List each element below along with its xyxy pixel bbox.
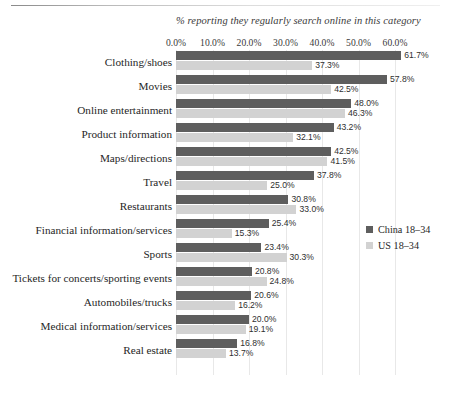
category-label: Financial information/services — [36, 218, 172, 242]
chart-row: Product information43.2%32.1% — [0, 122, 455, 146]
category-label: Movies — [138, 74, 172, 98]
bar-value-label: 30.3% — [287, 253, 314, 262]
bar-us — [176, 349, 226, 358]
chart-row: Real estate16.8%13.7% — [0, 338, 455, 362]
bar-us — [176, 133, 293, 142]
bar-value-label: 57.8% — [387, 75, 414, 84]
bar-china — [176, 339, 237, 348]
category-label: Travel — [143, 170, 172, 194]
bar-china — [176, 219, 269, 228]
bar-value-label: 25.0% — [267, 181, 294, 190]
chart-row: Automobiles/trucks20.6%16.2% — [0, 290, 455, 314]
chart-row: Restaurants30.8%33.0% — [0, 194, 455, 218]
bar-value-label: 15.3% — [232, 229, 259, 238]
chart-row: Travel37.8%25.0% — [0, 170, 455, 194]
legend-swatch-icon — [366, 226, 373, 233]
category-label: Automobiles/trucks — [84, 290, 172, 314]
bar-us — [176, 109, 345, 118]
bar-value-label: 20.6% — [251, 291, 278, 300]
bar-us — [176, 229, 232, 238]
x-axis-tick-labels: 0.0%10.0%20.0%30.0%40.0%50.0%60.0% — [0, 36, 455, 49]
legend-swatch-icon — [366, 242, 373, 249]
chart-row: Medical information/services20.0%19.1% — [0, 314, 455, 338]
bar-value-label: 16.8% — [237, 339, 264, 348]
bar-us — [176, 157, 327, 166]
bar-china — [176, 123, 334, 132]
bar-value-label: 19.1% — [246, 325, 273, 334]
bar-value-label: 61.7% — [401, 51, 428, 60]
chart-row: Maps/directions42.5%41.5% — [0, 146, 455, 170]
legend-item[interactable]: China 18–34 — [366, 222, 455, 238]
bar-value-label: 23.4% — [261, 243, 288, 252]
bar-value-label: 42.5% — [331, 85, 358, 94]
bar-value-label: 33.0% — [296, 205, 323, 214]
bar-value-label: 20.8% — [252, 267, 279, 276]
bar-china — [176, 171, 314, 180]
bar-china — [176, 99, 351, 108]
bar-us — [176, 301, 235, 310]
bar-china — [176, 315, 249, 324]
bar-china — [176, 75, 387, 84]
category-label: Online entertainment — [77, 98, 172, 122]
bar-value-label: 20.0% — [249, 315, 276, 324]
chart-row: Movies57.8%42.5% — [0, 74, 455, 98]
bar-chart: % reporting they regularly search online… — [0, 0, 455, 397]
legend-item[interactable]: US 18–34 — [366, 238, 455, 254]
bar-us — [176, 85, 331, 94]
bar-value-label: 46.3% — [345, 109, 372, 118]
chart-row: Tickets for concerts/sporting events20.8… — [0, 266, 455, 290]
category-label: Product information — [82, 122, 172, 146]
bar-value-label: 37.3% — [312, 61, 339, 70]
bar-value-label: 42.5% — [331, 147, 358, 156]
bar-us — [176, 253, 287, 262]
bar-china — [176, 51, 401, 60]
bar-us — [176, 181, 267, 190]
chart-row: Clothing/shoes61.7%37.3% — [0, 50, 455, 74]
bar-china — [176, 147, 331, 156]
bar-value-label: 41.5% — [327, 157, 354, 166]
bar-value-label: 32.1% — [293, 133, 320, 142]
chart-title: % reporting they regularly search online… — [176, 14, 446, 27]
top-divider — [11, 5, 440, 6]
category-label: Medical information/services — [41, 314, 172, 338]
bar-value-label: 43.2% — [334, 123, 361, 132]
category-label: Maps/directions — [100, 146, 172, 170]
bar-us — [176, 277, 267, 286]
category-label: Real estate — [123, 338, 172, 362]
bar-china — [176, 267, 252, 276]
category-label: Clothing/shoes — [105, 50, 172, 74]
bar-value-label: 13.7% — [226, 349, 253, 358]
bar-china — [176, 243, 261, 252]
category-label: Sports — [143, 242, 172, 266]
bar-us — [176, 325, 246, 334]
bar-value-label: 37.8% — [314, 171, 341, 180]
bar-rows: Clothing/shoes61.7%37.3%Movies57.8%42.5%… — [0, 50, 455, 362]
bar-value-label: 24.8% — [267, 277, 294, 286]
x-axis-tick: 60.0% — [365, 36, 425, 49]
legend-label: US 18–34 — [378, 238, 419, 254]
bar-us — [176, 61, 312, 70]
bar-value-label: 16.2% — [235, 301, 262, 310]
legend: China 18–34US 18–34 — [366, 222, 455, 254]
bar-value-label: 30.8% — [288, 195, 315, 204]
bar-china — [176, 195, 288, 204]
bar-china — [176, 291, 251, 300]
category-label: Tickets for concerts/sporting events — [12, 266, 172, 290]
bar-value-label: 48.0% — [351, 99, 378, 108]
chart-row: Online entertainment48.0%46.3% — [0, 98, 455, 122]
category-label: Restaurants — [120, 194, 172, 218]
legend-label: China 18–34 — [378, 222, 430, 238]
bar-us — [176, 205, 296, 214]
bar-value-label: 25.4% — [269, 219, 296, 228]
